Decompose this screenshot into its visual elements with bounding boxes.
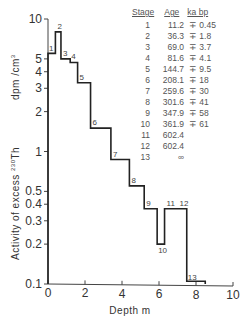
table-row: 9347.9∓ 58 xyxy=(132,108,219,119)
row-error xyxy=(184,152,219,163)
header-stage: Stage xyxy=(132,7,154,17)
x-axis xyxy=(48,284,233,286)
y-axis-unit: dpm /cm3 xyxy=(10,54,21,100)
row-age: 81.6 xyxy=(150,53,184,64)
header-unit: ka bp xyxy=(187,7,208,17)
y-tick-label: 0.3 xyxy=(25,214,42,228)
row-error: ∓ 41 xyxy=(184,97,219,108)
x-tick-label: 4 xyxy=(119,287,126,301)
age-table: Stage Age ka bp 111.2∓ 0.45236.3∓ 1.8369… xyxy=(132,7,219,163)
x-tick-label: 10 xyxy=(226,288,240,302)
row-stage: 5 xyxy=(132,64,150,75)
y-tick-label: 1 xyxy=(35,145,42,159)
stage-label: 9 xyxy=(146,199,151,208)
row-stage: 7 xyxy=(132,86,150,97)
row-age: 301.6 xyxy=(150,97,184,108)
table-row: 11602.4 xyxy=(132,130,219,141)
row-stage: 2 xyxy=(132,31,150,42)
stage-label: 7 xyxy=(113,150,118,159)
table-row: 8301.6∓ 41 xyxy=(132,97,219,108)
row-error: ∓ 58 xyxy=(184,108,219,119)
row-age: 208.1 xyxy=(150,75,184,86)
table-row: 5144.7∓ 9.5 xyxy=(132,64,219,75)
row-stage: 4 xyxy=(132,53,150,64)
x-tick-label: 2 xyxy=(82,286,89,300)
stage-label: 2 xyxy=(57,22,62,31)
row-error: ∓ 61 xyxy=(184,119,219,130)
table-row: 481.6∓ 4.1 xyxy=(132,53,219,64)
table-row: 369.0∓ 3.7 xyxy=(132,42,219,53)
y-axis-title: Activity of excess 230Th xyxy=(10,147,21,260)
row-age: 602.4 xyxy=(150,130,184,141)
row-age: 361.9 xyxy=(150,119,184,130)
stage-label: 4 xyxy=(71,52,76,61)
row-age: 69.0 xyxy=(150,42,184,53)
row-stage: 3 xyxy=(132,42,150,53)
row-error: ∓ 9.5 xyxy=(184,64,219,75)
y-tick-label: 0.1 xyxy=(25,277,42,291)
y-tick-label: 3 xyxy=(35,81,42,95)
y-tick-label: 4 xyxy=(35,65,42,79)
table-row: 12602.4 xyxy=(132,141,219,152)
stage-label: 11 xyxy=(167,199,176,208)
table-row: 111.2∓ 0.45 xyxy=(132,20,219,31)
table-row: 6208.1∓ 18 xyxy=(132,75,219,86)
row-stage: 6 xyxy=(132,75,150,86)
x-tick-label: 0 xyxy=(45,286,52,300)
table-row: 7259.6∓ 30 xyxy=(132,86,219,97)
stage-label: 3 xyxy=(63,49,68,58)
header-age: Age xyxy=(164,7,179,17)
stage-label: 12 xyxy=(180,199,189,208)
row-stage: 9 xyxy=(132,108,150,119)
row-age: 602.4 xyxy=(150,141,184,152)
table-row: 13∞ xyxy=(132,152,219,163)
y-tick-label: 2 xyxy=(35,105,42,119)
table-row: 236.3∓ 1.8 xyxy=(132,31,219,42)
row-error: ∓ 18 xyxy=(184,75,219,86)
stage-label: 13 xyxy=(188,273,197,282)
row-stage: 8 xyxy=(132,97,150,108)
row-stage: 12 xyxy=(132,141,150,152)
x-tick-label: 6 xyxy=(156,287,163,301)
row-age: 11.2 xyxy=(150,20,184,31)
y-tick-label: 10 xyxy=(29,12,43,26)
table-row: 10361.9∓ 61 xyxy=(132,119,219,130)
row-age: 347.9 xyxy=(150,108,184,119)
age-table-rows: 111.2∓ 0.45236.3∓ 1.8369.0∓ 3.7481.6∓ 4.… xyxy=(132,20,219,163)
row-age: 36.3 xyxy=(150,31,184,42)
row-age: 144.7 xyxy=(150,64,184,75)
row-error xyxy=(184,130,219,141)
stage-label: 5 xyxy=(80,73,85,82)
y-tick-label: 0.4 xyxy=(25,197,42,211)
stage-label: 6 xyxy=(93,118,98,127)
row-age: 259.6 xyxy=(150,86,184,97)
row-stage: 11 xyxy=(132,130,150,141)
row-error: ∓ 3.7 xyxy=(184,42,219,53)
row-error xyxy=(184,141,219,152)
row-age: ∞ xyxy=(150,152,184,163)
row-stage: 10 xyxy=(132,119,150,130)
age-table-header: Stage Age ka bp xyxy=(132,7,219,17)
x-tick-label: 8 xyxy=(193,288,200,302)
stage-label: 10 xyxy=(158,246,167,255)
stage-label: 8 xyxy=(131,176,136,185)
row-error: ∓ 4.1 xyxy=(184,53,219,64)
row-error: ∓ 1.8 xyxy=(184,31,219,42)
row-error: ∓ 30 xyxy=(184,86,219,97)
row-error: ∓ 0.45 xyxy=(184,20,219,31)
x-axis-title: Depth m xyxy=(109,305,150,316)
row-stage: 13 xyxy=(132,152,150,163)
y-tick-label: 0.2 xyxy=(25,237,42,251)
stage-label: 1 xyxy=(49,44,54,53)
row-stage: 1 xyxy=(132,20,150,31)
